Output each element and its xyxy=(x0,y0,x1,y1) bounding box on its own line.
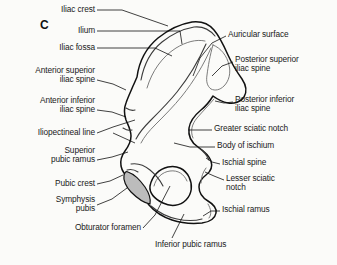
label-superior-pubic-ramus: Superior pubic ramus xyxy=(0,146,95,165)
arcuate-line-secondary xyxy=(141,48,211,143)
leader-iliopectineal-line xyxy=(97,120,135,143)
iliopectineal-line-ridge xyxy=(136,44,206,139)
obturator-foramen-inner-line xyxy=(154,171,187,186)
greater-sciatic-notch-curve xyxy=(192,99,214,138)
anatomy-figure: C Iliac crest Ilium Iliac fossa Anterior… xyxy=(0,0,337,265)
label-inferior-pubic-ramus: Inferior pubic ramus xyxy=(155,240,315,249)
leader-symphysis-pubis xyxy=(97,188,127,205)
label-greater-sciatic-notch: Greater sciatic notch xyxy=(214,124,337,133)
label-lesser-sciatic-notch: Lesser sciatic notch xyxy=(226,174,337,193)
label-pubic-crest: Pubic crest xyxy=(0,179,95,188)
leader-lesser-sciatic-notch xyxy=(205,172,224,180)
label-ischial-spine: Ischial spine xyxy=(222,158,337,167)
leader-superior-pubic-ramus xyxy=(97,152,128,160)
leader-inferior-pubic-ramus xyxy=(172,214,184,238)
leader-asis xyxy=(97,80,126,90)
leader-ischial-ramus xyxy=(203,211,220,216)
label-ischial-ramus: Ischial ramus xyxy=(222,205,337,214)
label-auricular-surface: Auricular surface xyxy=(228,30,337,39)
label-body-of-ischium: Body of ischium xyxy=(217,141,337,150)
anterior-superior-iliac-spine-notch xyxy=(126,108,135,110)
label-iliac-fossa: Iliac fossa xyxy=(0,43,95,52)
label-iliac-crest: Iliac crest xyxy=(0,5,95,14)
label-obturator-foramen: Obturator foramen xyxy=(0,223,141,232)
anterior-inferior-iliac-spine-bump xyxy=(123,128,132,130)
leader-aiis xyxy=(97,110,126,117)
label-ilium: Ilium xyxy=(0,26,95,35)
label-anterior-superior-iliac-spine: Anterior superior iliac spine xyxy=(0,66,95,85)
leader-ilium xyxy=(97,31,182,44)
leader-iliac-fossa xyxy=(97,48,172,56)
label-posterior-superior-iliac-spine: Posterior superior iliac spine xyxy=(235,55,337,74)
leader-iliac-crest xyxy=(97,10,168,26)
label-symphysis-pubis: Symphysis pubis xyxy=(0,195,95,214)
label-posterior-inferior-iliac-spine: Posterior inferior iliac spine xyxy=(235,95,337,114)
leader-pubic-crest xyxy=(97,175,123,184)
label-anterior-inferior-iliac-spine: Anterior inferior iliac spine xyxy=(0,96,95,115)
symphysis-pubis-surface xyxy=(124,172,150,204)
obturator-foramen xyxy=(150,166,192,205)
label-iliopectineal-line: Iliopectineal line xyxy=(0,128,95,137)
